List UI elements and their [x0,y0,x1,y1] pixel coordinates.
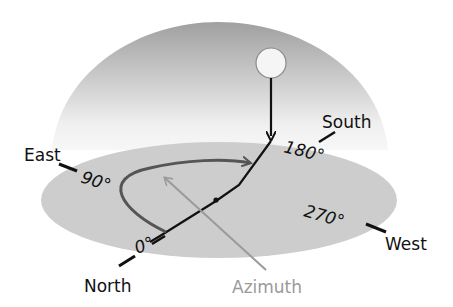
north-tick [119,256,135,266]
azimuth-diagram: 0° 90° 180° 270° North East South West A… [0,0,453,307]
label-azimuth: Azimuth [232,277,302,297]
label-north: North [84,276,132,296]
label-south: South [322,112,371,132]
sun-icon [256,48,286,78]
label-west: West [385,234,427,254]
label-east: East [24,145,61,165]
observer-point [213,197,218,202]
